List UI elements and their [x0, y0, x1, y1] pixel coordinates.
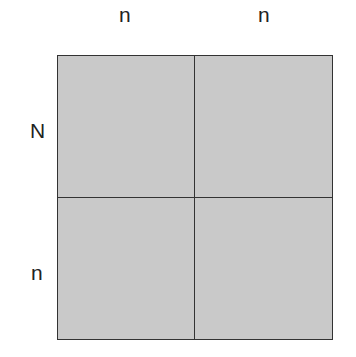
column-allele-1: n: [119, 4, 131, 25]
cell-bottom-right: [195, 198, 332, 340]
cell-top-right: [195, 56, 332, 198]
punnett-grid: [57, 55, 333, 340]
cell-top-left: [58, 56, 195, 198]
cell-bottom-left: [58, 198, 195, 340]
row-allele-2: n: [31, 262, 43, 283]
column-allele-2: n: [258, 4, 270, 25]
row-allele-1: N: [30, 120, 45, 141]
